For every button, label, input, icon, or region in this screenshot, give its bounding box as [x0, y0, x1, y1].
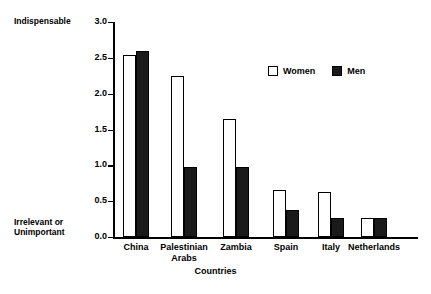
x-label-palestinian-arabs: Palestinian Arabs	[160, 242, 208, 264]
y-tick-label: 1.0	[94, 159, 107, 169]
y-tick-mark	[108, 237, 113, 238]
bar-men-china	[136, 51, 149, 237]
y-tick-label: 2.0	[94, 88, 107, 98]
y-tick-mark	[108, 130, 113, 131]
y-tick-label: 3.0	[94, 16, 107, 26]
legend-item-women: Women	[268, 66, 315, 76]
y-tick-label: 0.5	[94, 195, 107, 205]
chart-legend: WomenMen	[268, 66, 365, 76]
bar-men-italy	[331, 218, 344, 237]
x-label-zambia: Zambia	[220, 242, 252, 253]
y-tick-mark	[108, 201, 113, 202]
y-tick-mark	[108, 58, 113, 59]
bar-men-netherlands	[374, 218, 387, 237]
x-axis-title: Countries	[0, 266, 431, 276]
y-tick-mark	[108, 94, 113, 95]
y-tick-label: 0.0	[94, 231, 107, 241]
plot-area: 0.00.51.01.52.02.53.0 ChinaPalestinian A…	[113, 22, 418, 237]
y-axis-bottom-anchor-label: Irrelevant or Unimportant	[14, 217, 65, 237]
x-label-spain: Spain	[274, 242, 299, 253]
bar-women-china	[123, 55, 136, 237]
y-tick-mark	[108, 22, 113, 23]
y-axis-line	[113, 22, 115, 237]
y-axis-top-anchor-label: Indispensable	[14, 16, 71, 26]
x-axis-line	[113, 237, 418, 239]
bar-women-netherlands	[361, 218, 374, 237]
y-tick-label: 2.5	[94, 52, 107, 62]
bar-men-palestinian-arabs	[184, 167, 197, 237]
bar-men-zambia	[236, 167, 249, 237]
bar-women-zambia	[223, 119, 236, 237]
legend-label: Women	[283, 66, 315, 76]
x-label-italy: Italy	[322, 242, 340, 253]
x-label-netherlands: Netherlands	[348, 242, 400, 253]
x-label-china: China	[123, 242, 148, 253]
bar-women-palestinian-arabs	[171, 76, 184, 237]
y-tick-label: 1.5	[94, 124, 107, 134]
bar-chart-figure: Indispensable Irrelevant or Unimportant …	[0, 0, 431, 294]
hollow-square-icon	[268, 66, 278, 76]
bar-women-italy	[318, 192, 331, 237]
bar-women-spain	[273, 190, 286, 237]
legend-item-men: Men	[332, 66, 365, 76]
legend-label: Men	[347, 66, 365, 76]
bar-men-spain	[286, 210, 299, 237]
filled-square-icon	[332, 66, 342, 76]
y-tick-mark	[108, 165, 113, 166]
